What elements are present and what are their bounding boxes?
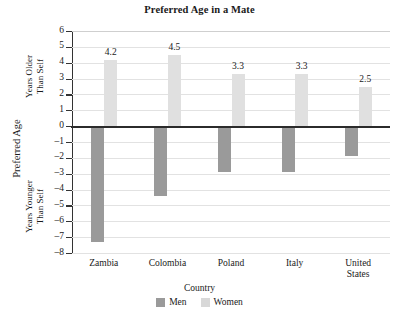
legend-swatch-men-icon [156,298,165,307]
y-axis-tick-label: –7 [4,231,64,241]
y-axis-tick-mark [66,142,72,143]
bar-men-united-states [345,126,358,156]
gridline [72,174,390,175]
gridline [72,205,390,206]
y-axis-tick-label: 2 [4,88,64,98]
y-axis-tick-mark [66,190,72,191]
gridline [72,190,390,191]
gridline [72,237,390,238]
x-axis-tick-label-line1: United [320,258,396,269]
x-axis-tick-label-line2: States [320,269,396,280]
y-axis-tick-label: 3 [4,72,64,82]
bar-value-label: 3.3 [282,61,322,71]
chart-legend: Men Women [0,297,399,307]
bar-value-label: 4.2 [91,47,131,57]
y-axis-tick-mark [66,63,72,64]
bar-women-poland [232,74,245,126]
y-axis-tick-mark [66,158,72,159]
y-axis-tick-labels: 6543210–1–2–3–4–5–6–7–8 [0,0,64,324]
y-axis-tick-mark [66,205,72,206]
x-axis-tick-label: UnitedStates [320,258,396,280]
y-axis-tick-mark [66,237,72,238]
y-axis-tick-label: 4 [4,56,64,66]
gridline [72,253,390,254]
y-axis-tick-label: 5 [4,40,64,50]
y-axis-tick-label: 6 [4,25,64,35]
y-axis-tick-label: 1 [4,104,64,114]
y-axis-tick-mark [66,94,72,95]
bar-men-zambia [91,126,104,242]
bar-women-italy [295,74,308,126]
zero-baseline [71,126,390,127]
legend-swatch-women-icon [201,298,210,307]
gridline [72,142,390,143]
y-axis-tick-label: 0 [4,120,64,130]
y-axis-tick-mark [66,110,72,111]
bar-women-colombia [168,55,181,126]
y-axis-tick-mark [66,47,72,48]
bar-value-label: 4.5 [154,42,194,52]
bar-men-italy [282,126,295,172]
bar-men-colombia [154,126,167,196]
bar-women-united-states [359,87,372,127]
y-axis-tick-label: –8 [4,247,64,257]
y-axis-tick-label: –2 [4,151,64,161]
bar-value-label: 3.3 [218,61,258,71]
y-axis-tick-label: –5 [4,199,64,209]
bar-men-poland [218,126,231,172]
y-axis-tick-mark [66,31,72,32]
gridline [72,158,390,159]
y-axis-tick-label: –4 [4,183,64,193]
y-axis-tick-mark [66,79,72,80]
y-axis-tick-mark [66,174,72,175]
gridline [72,31,390,32]
legend-label-women: Women [214,297,243,307]
legend-item-women[interactable]: Women [201,297,243,307]
bar-value-label: 2.5 [345,74,385,84]
y-axis-tick-label: –3 [4,167,64,177]
chart-container: Preferred Age in a Mate Preferred Age Ye… [0,0,399,324]
legend-item-men[interactable]: Men [156,297,186,307]
gridline [72,221,390,222]
y-axis-tick-label: –6 [4,215,64,225]
y-axis-tick-mark [66,221,72,222]
legend-label-men: Men [169,297,186,307]
y-axis-tick-mark [66,253,72,254]
x-axis-title: Country [0,283,399,293]
plot-area: 4.24.53.33.32.5 [72,31,390,253]
bar-women-zambia [104,60,117,127]
y-axis-tick-label: –1 [4,136,64,146]
